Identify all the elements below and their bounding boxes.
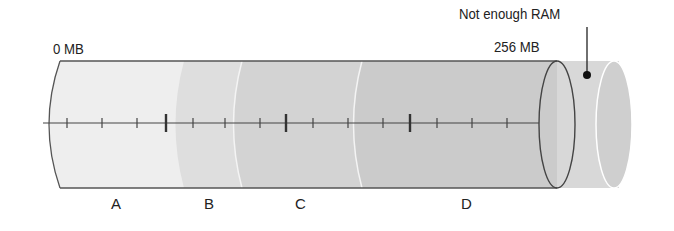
segment-label-d: D [461, 195, 472, 212]
segment-label-b: B [204, 195, 214, 212]
segment-c [229, 61, 362, 188]
segment-label-c: C [295, 195, 306, 212]
overflow-cylinder [557, 61, 632, 188]
segment-a [49, 61, 184, 188]
overflow-label: Not enough RAM [459, 5, 560, 22]
segment-b [173, 61, 242, 188]
segment-label-a: A [111, 195, 121, 212]
segment-d [343, 61, 558, 188]
memory-cylinder-diagram [0, 0, 674, 231]
end-label: 256 MB [494, 38, 539, 55]
start-label: 0 MB [53, 40, 84, 57]
callout-dot [583, 71, 591, 79]
